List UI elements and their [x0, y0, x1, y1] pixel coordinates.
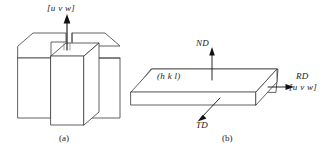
- label-rolling-direction: RD: [296, 71, 309, 81]
- label-direction-uvw-panel-b: [u v w]: [289, 82, 317, 92]
- slab-top-face-main: [131, 69, 277, 92]
- texture-figure: [u v w] ND (h k l) TD RD [u v w] (a) (b): [0, 0, 328, 160]
- grain-right-face: [84, 43, 99, 125]
- label-normal-direction: ND: [196, 38, 209, 48]
- panel-b-slab: [131, 47, 294, 122]
- panel-a-cube: [18, 14, 120, 136]
- caption-panel-b: (b): [222, 133, 233, 143]
- slab-front-face: [131, 92, 256, 105]
- caption-panel-a: (a): [59, 133, 69, 143]
- block-back-left-face: [18, 58, 51, 118]
- label-transverse-direction: TD: [196, 120, 208, 130]
- label-direction-uvw-panel-a: [u v w]: [47, 3, 75, 13]
- label-plane-hkl: (h k l): [157, 71, 181, 81]
- grain-front-face: [51, 56, 84, 125]
